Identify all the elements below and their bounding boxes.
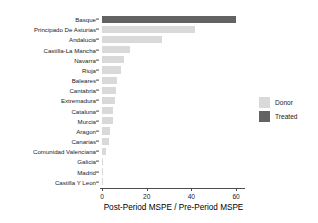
y-axis-label-row: Galicia — [0, 156, 96, 166]
y-axis-label: Madrid — [77, 168, 96, 175]
bar — [102, 77, 117, 84]
y-axis-label-row: Castilla Y Leon — [0, 177, 96, 187]
y-axis-tick — [96, 161, 99, 162]
bar-row — [102, 177, 245, 187]
y-axis-label-row: Castilla-La Mancha — [0, 45, 96, 55]
bar-series — [102, 14, 245, 187]
x-axis-tick-label: 0 — [100, 193, 104, 201]
y-axis-label: Aragon — [76, 127, 96, 134]
bar — [102, 168, 103, 175]
y-axis-tick — [96, 131, 99, 132]
y-axis-label-row: Madrid — [0, 167, 96, 177]
x-axis-tick-label: 60 — [232, 193, 239, 201]
y-axis-label: Navarra — [74, 56, 96, 63]
y-axis-label: Murcia — [78, 117, 96, 124]
y-axis-label-row: Aragon — [0, 126, 96, 136]
y-axis-tick — [96, 49, 99, 50]
bar-row — [102, 156, 245, 166]
y-axis-label-row: Canarias — [0, 136, 96, 146]
legend-label: Treated — [275, 113, 297, 121]
y-axis-tick — [96, 90, 99, 91]
bar — [102, 148, 106, 155]
y-axis-label: Cantabria — [69, 87, 96, 94]
y-axis-label-row: Extremadura — [0, 95, 96, 105]
y-axis-tick — [96, 70, 99, 71]
chart-legend: DonorTreated — [259, 96, 317, 124]
bar — [102, 26, 195, 33]
y-axis-tick — [96, 110, 99, 111]
bar-row — [102, 24, 245, 34]
y-axis-label: Castilla-La Mancha — [43, 46, 96, 53]
x-axis-line — [100, 188, 245, 189]
y-axis-tick — [96, 151, 99, 152]
x-axis-tick — [147, 188, 148, 191]
bar-row — [102, 14, 245, 24]
plot-area — [102, 14, 245, 187]
y-axis-label-row: Baleares — [0, 75, 96, 85]
bar-row — [102, 45, 245, 55]
y-axis-tick — [96, 80, 99, 81]
bar-row — [102, 146, 245, 156]
legend-swatch — [259, 111, 270, 122]
bar — [102, 127, 110, 134]
y-axis-label-row: Andalucia — [0, 34, 96, 44]
bar-row — [102, 65, 245, 75]
y-axis-label-row: Principado De Asturias — [0, 24, 96, 34]
y-axis-label-row: Navarra — [0, 55, 96, 65]
legend-label: Donor — [275, 99, 293, 107]
y-axis-tick — [96, 19, 99, 20]
y-axis-label: Canarias — [71, 138, 96, 145]
y-axis-label-row: Comunidad Valenciana — [0, 146, 96, 156]
y-axis-label-row: Cantabria — [0, 85, 96, 95]
y-axis-tick — [96, 171, 99, 172]
y-axis-label-row: Cataluna — [0, 106, 96, 116]
bar — [102, 87, 116, 94]
y-axis-label-row: Rioja — [0, 65, 96, 75]
bar — [102, 97, 115, 104]
y-axis-label: Extremadura — [61, 97, 96, 104]
bar — [102, 46, 130, 53]
y-axis-label: Rioja — [82, 66, 96, 73]
bar — [102, 107, 113, 114]
y-axis-label: Castilla Y Leon — [55, 178, 96, 185]
x-axis-tick — [191, 188, 192, 191]
y-axis-label: Galicia — [77, 158, 96, 165]
bar — [102, 56, 124, 63]
bar-row — [102, 116, 245, 126]
y-axis-tick — [96, 29, 99, 30]
bar — [102, 138, 109, 145]
bar-row — [102, 55, 245, 65]
y-axis-label: Baleares — [72, 77, 96, 84]
y-axis-label: Comunidad Valenciana — [33, 148, 96, 155]
y-axis-label: Principado De Asturias — [34, 26, 96, 33]
legend-swatch — [259, 97, 270, 108]
bar — [102, 178, 103, 185]
bar — [102, 36, 162, 43]
bar — [102, 66, 121, 73]
bar-row — [102, 136, 245, 146]
y-axis-label: Andalucia — [69, 36, 96, 43]
bar — [102, 16, 236, 23]
chart-figure: BasquePrincipado De AsturiasAndaluciaCas… — [0, 0, 318, 223]
bar-row — [102, 85, 245, 95]
y-axis-tick — [96, 59, 99, 60]
bar-row — [102, 75, 245, 85]
x-axis-tick-label: 40 — [188, 193, 195, 201]
bar — [102, 117, 113, 124]
y-axis-label-row: Murcia — [0, 116, 96, 126]
y-axis-tick — [96, 39, 99, 40]
x-axis-title: Post-Period MSPE / Pre-Period MSPE — [102, 202, 245, 213]
y-axis-tick — [96, 181, 99, 182]
bar-row — [102, 126, 245, 136]
legend-item: Donor — [259, 96, 317, 109]
bar-row — [102, 34, 245, 44]
x-axis-tick-label: 20 — [143, 193, 150, 201]
x-axis-tick — [236, 188, 237, 191]
y-axis-tick — [96, 100, 99, 101]
y-axis-category-labels: BasquePrincipado De AsturiasAndaluciaCas… — [0, 14, 96, 187]
y-axis-label: Cataluna — [71, 107, 96, 114]
bar-row — [102, 167, 245, 177]
x-axis-tick — [102, 188, 103, 191]
bar-row — [102, 95, 245, 105]
bar — [102, 158, 103, 165]
